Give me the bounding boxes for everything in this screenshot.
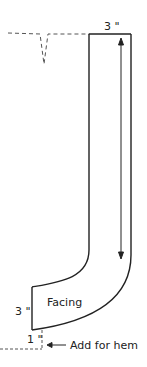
hem-allowance-label: 1 " [27, 334, 43, 345]
grainline-arrow [119, 38, 124, 259]
garment-dashed-outline [8, 33, 89, 64]
hem-note-label: Add for hem [70, 340, 138, 351]
bottom-width-label: 3 " [15, 306, 31, 317]
top-width-label: 3 " [104, 21, 120, 32]
piece-name-label: Facing [47, 297, 82, 308]
hem-pointer-arrow [47, 343, 66, 348]
facing-outline [32, 34, 131, 330]
